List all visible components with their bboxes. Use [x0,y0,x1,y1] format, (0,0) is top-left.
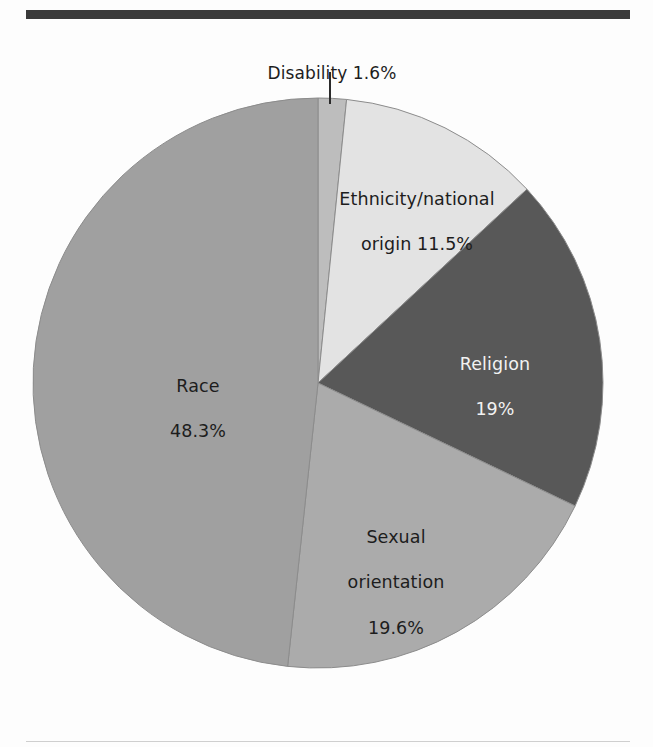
pie-slice-race [33,98,318,666]
pie-chart: Disability 1.6% Ethnicity/national origi… [0,0,653,747]
scanned-page: Disability 1.6% Ethnicity/national origi… [0,0,653,747]
page-bottom-rule [26,741,630,742]
pie-slice-group [33,98,603,668]
pie-chart-svg [0,0,653,747]
